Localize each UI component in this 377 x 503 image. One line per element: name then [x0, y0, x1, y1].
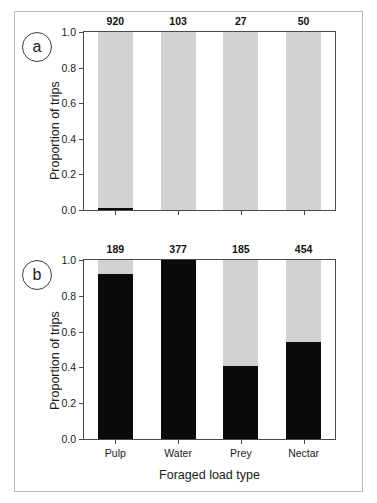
y-axis-tick [79, 296, 84, 297]
x-axis-tick [241, 210, 242, 215]
bar-segment-dark [98, 274, 133, 439]
y-axis-label: 0.8 [61, 290, 76, 302]
y-axis-tick [79, 68, 84, 69]
y-axis-tick [79, 332, 84, 333]
x-axis-tick [115, 439, 116, 444]
x-axis-tick [304, 439, 305, 444]
y-axis-label: 0.4 [61, 133, 76, 145]
x-axis-title: Foraged load type [83, 468, 336, 482]
x-axis-label-prey: Prey [230, 447, 252, 459]
bar-slot: 185 [210, 260, 273, 439]
sample-size-label: 377 [169, 243, 187, 255]
bar-segment-light [223, 260, 258, 366]
bar-segment-dark [223, 366, 258, 439]
bar-segment-light [98, 32, 133, 208]
bar-segment-light [223, 32, 258, 210]
y-axis-tick [79, 367, 84, 368]
stacked-bar[interactable]: 50 [286, 32, 321, 210]
sample-size-label: 50 [298, 15, 310, 27]
y-axis-title-a: Proportion of trips [48, 81, 62, 180]
bar-segment-light [286, 260, 321, 342]
panel-label-a: a [22, 32, 52, 62]
y-axis-tick [79, 32, 84, 33]
stacked-bar[interactable]: 185 [223, 260, 258, 439]
panel-b: b Proportion of trips 189377185454 0.00.… [0, 235, 377, 503]
bar-slot: 920 [84, 32, 147, 210]
bar-slot: 454 [272, 260, 335, 439]
bar-segment-dark [161, 260, 196, 439]
y-axis-label: 1.0 [61, 254, 76, 266]
y-axis-label: 0.4 [61, 361, 76, 373]
y-axis-tick [79, 139, 84, 140]
sample-size-label: 920 [107, 15, 125, 27]
bar-slot: 27 [210, 32, 273, 210]
y-axis-tick [79, 210, 84, 211]
stacked-bar[interactable]: 377 [161, 260, 196, 439]
y-axis-label: 0.6 [61, 326, 76, 338]
y-axis-label: 0.2 [61, 397, 76, 409]
y-axis-tick [79, 439, 84, 440]
x-axis-label-water: Water [164, 447, 192, 459]
stacked-bar[interactable]: 189 [98, 260, 133, 439]
y-axis-tick [79, 260, 84, 261]
bar-group-b: 189377185454 [84, 260, 335, 439]
stacked-bar[interactable]: 920 [98, 32, 133, 210]
y-axis-label: 1.0 [61, 26, 76, 38]
bar-slot: 189 [84, 260, 147, 439]
stacked-bar[interactable]: 103 [161, 32, 196, 210]
bar-segment-light [98, 260, 133, 274]
y-axis-tick [79, 103, 84, 104]
y-axis-tick [79, 174, 84, 175]
sample-size-label: 103 [169, 15, 187, 27]
stacked-bar[interactable]: 454 [286, 260, 321, 439]
bar-slot: 50 [272, 32, 335, 210]
y-axis-label: 0.0 [61, 433, 76, 445]
bar-segment-light [161, 32, 196, 210]
y-axis-label: 0.2 [61, 168, 76, 180]
sample-size-label: 454 [295, 243, 313, 255]
y-axis-label: 0.0 [61, 204, 76, 216]
y-axis-title-b: Proportion of trips [48, 311, 62, 410]
x-axis-label-nectar: Nectar [288, 447, 319, 459]
sample-size-label: 27 [235, 15, 247, 27]
x-axis-tick [178, 210, 179, 215]
figure-container: a Proportion of trips 9201032750 0.00.20… [0, 0, 377, 503]
bar-slot: 377 [147, 260, 210, 439]
x-axis-tick [241, 439, 242, 444]
x-axis-label-pulp: Pulp [105, 447, 126, 459]
stacked-bar[interactable]: 27 [223, 32, 258, 210]
panel-label-b: b [22, 260, 52, 290]
y-axis-label: 0.8 [61, 62, 76, 74]
x-axis-tick [304, 210, 305, 215]
sample-size-label: 189 [107, 243, 125, 255]
plot-area-a: 9201032750 0.00.20.40.60.81.0 [83, 31, 336, 211]
y-axis-label: 0.6 [61, 97, 76, 109]
panel-a: a Proportion of trips 9201032750 0.00.20… [0, 0, 377, 235]
bar-group-a: 9201032750 [84, 32, 335, 210]
plot-area-b: 189377185454 0.00.20.40.60.81.0 PulpWate… [83, 259, 336, 440]
x-axis-tick [115, 210, 116, 215]
y-axis-tick [79, 403, 84, 404]
bar-segment-light [286, 32, 321, 210]
bar-segment-dark [286, 342, 321, 439]
bar-slot: 103 [147, 32, 210, 210]
x-axis-tick [178, 439, 179, 444]
sample-size-label: 185 [232, 243, 250, 255]
